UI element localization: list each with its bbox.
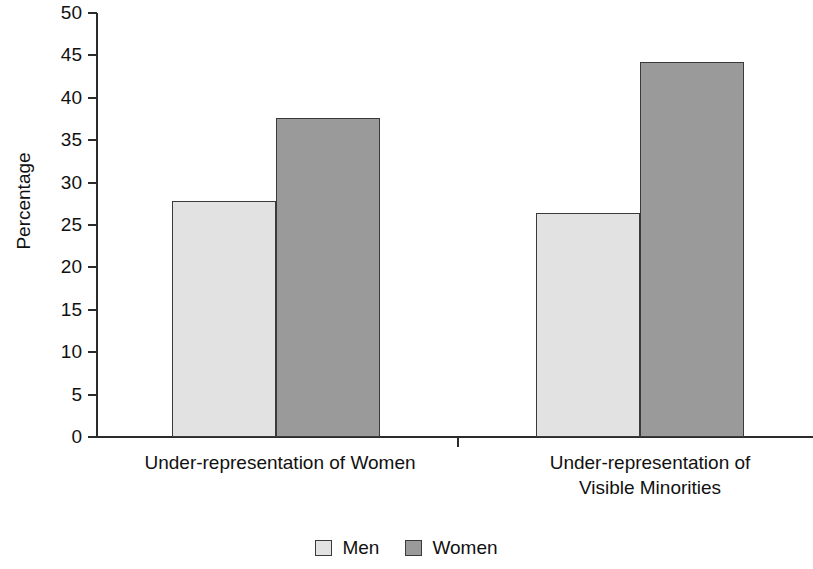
y-axis-tick: [88, 224, 97, 226]
y-axis-tick: [88, 436, 97, 438]
y-axis-tick: [88, 97, 97, 99]
legend-label-men: Men: [342, 538, 379, 557]
y-axis-tick-label: 15: [22, 300, 82, 319]
y-axis-tick: [88, 139, 97, 141]
y-axis-tick: [88, 394, 97, 396]
y-axis-tick-label: 25: [22, 215, 82, 234]
x-axis-category-label-0: Under-representation of Women: [110, 450, 450, 475]
y-axis-tick-label: 10: [22, 342, 82, 361]
bar-women-0: [276, 118, 380, 437]
y-axis-tick-label: 30: [22, 173, 82, 192]
bar-men-0: [172, 201, 276, 437]
y-axis-tick-label: 0: [22, 427, 82, 446]
legend-swatch-men-icon: [315, 540, 332, 556]
y-axis-tick: [88, 182, 97, 184]
y-axis-tick-label: 35: [22, 130, 82, 149]
y-axis-tick-label: 40: [22, 88, 82, 107]
y-axis-tick-label: 20: [22, 257, 82, 276]
y-axis-tick: [88, 351, 97, 353]
x-axis-category-label-1: Under-representation of Visible Minoriti…: [500, 450, 800, 500]
y-axis-tick-label: 5: [22, 385, 82, 404]
legend: Men Women: [0, 538, 813, 557]
y-axis-title: Percentage: [13, 131, 35, 271]
x-axis-category-divider-tick: [457, 437, 459, 447]
legend-item-men: Men: [315, 538, 379, 557]
y-axis-tick: [88, 309, 97, 311]
bar-women-1: [640, 62, 744, 437]
y-axis-tick: [88, 54, 97, 56]
bar-chart: Percentage 50454035302520151050 Under-re…: [0, 0, 813, 569]
legend-label-women: Women: [432, 538, 497, 557]
legend-swatch-women-icon: [405, 540, 422, 556]
y-axis-tick-label: 45: [22, 45, 82, 64]
y-axis-tick: [88, 12, 97, 14]
y-axis-tick: [88, 266, 97, 268]
y-axis-tick-label: 50: [22, 3, 82, 22]
legend-item-women: Women: [405, 538, 497, 557]
bar-men-1: [536, 213, 640, 437]
